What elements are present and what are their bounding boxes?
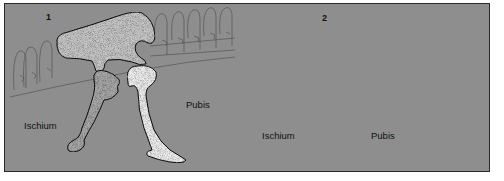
label-ischium-1: Ischium bbox=[24, 121, 57, 131]
panel-1 bbox=[10, 8, 235, 163]
ilium-1 bbox=[57, 12, 155, 72]
pubis-bone-1 bbox=[127, 66, 186, 163]
panel-number-2: 2 bbox=[322, 14, 327, 23]
label-ischium-2: Ischium bbox=[262, 131, 295, 141]
pelvis-diagram bbox=[0, 0, 504, 181]
label-pubis-1: Pubis bbox=[186, 100, 210, 110]
label-pubis-2: Pubis bbox=[371, 131, 395, 141]
panel-number-1: 1 bbox=[46, 13, 51, 22]
